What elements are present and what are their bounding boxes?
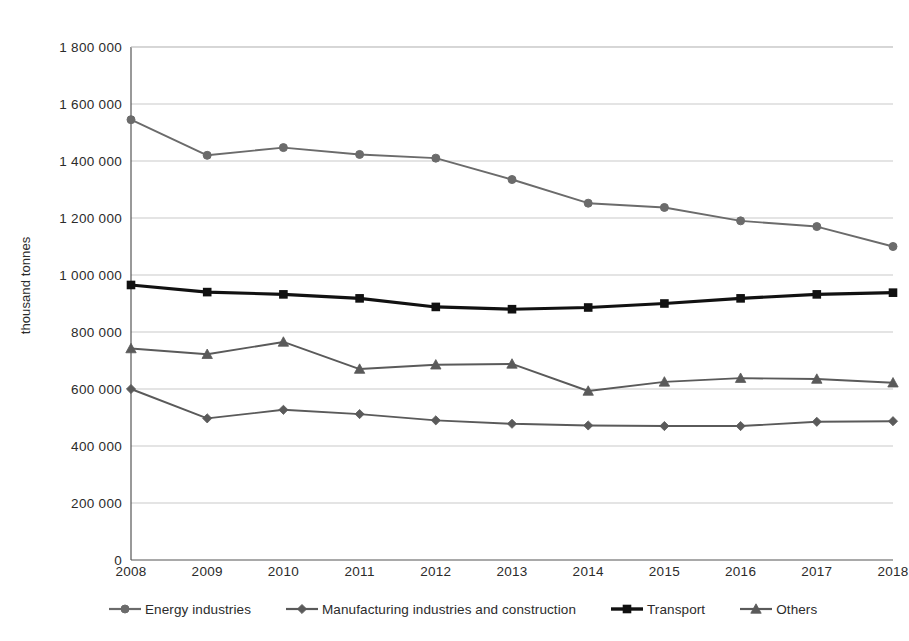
data-point (585, 304, 592, 311)
circle-marker-icon (108, 602, 142, 616)
data-point (660, 421, 669, 430)
data-point (813, 223, 821, 231)
data-point (508, 176, 516, 184)
data-point (584, 199, 592, 207)
series-others (126, 337, 898, 395)
data-point (126, 384, 135, 393)
legend-label: Others (776, 602, 817, 617)
data-point (507, 419, 516, 428)
data-point (356, 150, 364, 158)
data-point (584, 421, 593, 430)
axis-lines (131, 47, 893, 560)
legend-item[interactable]: Energy industries (108, 602, 251, 617)
gridlines (131, 47, 893, 503)
series-energy-industries (127, 116, 897, 251)
data-point (509, 306, 516, 313)
data-point (812, 417, 821, 426)
data-point (737, 217, 745, 225)
series-transport (128, 281, 897, 312)
data-point (356, 295, 363, 302)
legend-label: Energy industries (145, 602, 251, 617)
data-point (432, 303, 439, 310)
chart-legend: Energy industriesManufacturing industrie… (108, 596, 898, 622)
legend-label: Manufacturing industries and constructio… (322, 602, 576, 617)
data-point (660, 203, 668, 211)
data-point (279, 405, 288, 414)
data-point (890, 289, 897, 296)
data-point (736, 421, 745, 430)
data-point (431, 416, 440, 425)
series-manufacturing-industries-and-construction (126, 384, 897, 430)
data-point (204, 289, 211, 296)
data-point (280, 291, 287, 298)
data-point (128, 281, 135, 288)
legend-label: Transport (647, 602, 705, 617)
diamond-marker-icon (285, 602, 319, 616)
data-point (888, 417, 897, 426)
data-point (279, 144, 287, 152)
square-marker-icon (610, 602, 644, 616)
legend-item[interactable]: Manufacturing industries and constructio… (285, 602, 576, 617)
triangle-marker-icon (739, 602, 773, 616)
data-point (737, 295, 744, 302)
data-point (355, 409, 364, 418)
data-point (889, 243, 897, 251)
data-point (432, 154, 440, 162)
data-point (813, 291, 820, 298)
data-point (127, 116, 135, 124)
data-point (278, 337, 288, 346)
legend-item[interactable]: Others (739, 602, 817, 617)
data-point (203, 151, 211, 159)
data-point (203, 414, 212, 423)
data-point (661, 300, 668, 307)
legend-item[interactable]: Transport (610, 602, 705, 617)
